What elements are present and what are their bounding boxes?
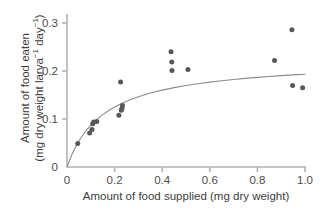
x-axis-tick-label: 0.2 (107, 174, 123, 186)
x-axis-tick-label: 0.8 (249, 174, 265, 186)
data-point (89, 127, 94, 132)
y-axis-title: Amount of food eaten (mg dry weight larv… (18, 8, 52, 168)
x-axis-tick-label: 0.4 (154, 174, 170, 186)
data-point (169, 49, 174, 54)
data-point (300, 85, 305, 90)
data-point (185, 67, 190, 72)
data-point (75, 141, 80, 146)
data-point (116, 113, 121, 118)
x-axis-tick-label: 0 (64, 174, 70, 186)
data-point (118, 80, 123, 85)
data-point-group (75, 27, 305, 146)
y-axis-tick-label: 0 (0, 161, 58, 173)
x-axis-tick-label: 1.0 (297, 174, 313, 186)
data-point (169, 68, 174, 73)
scatter-plot-figure: Amount of food supplied (mg dry weight) … (0, 0, 326, 212)
y-axis-tick-label: 0.1 (0, 113, 58, 125)
x-axis-tick-label: 0.6 (202, 174, 218, 186)
y-axis-title-line2: (mg dry weight larva−1 day−1) (32, 8, 46, 168)
y-axis-title-units-mid: day (33, 27, 45, 49)
data-point (272, 58, 277, 63)
y-axis-title-line1: Amount of food eaten (18, 8, 32, 168)
data-point (290, 83, 295, 88)
data-point (289, 27, 294, 32)
data-point (94, 119, 99, 124)
fitted-curve (67, 74, 305, 167)
data-point (120, 103, 125, 108)
y-axis-title-exponent-1: −1 (31, 49, 40, 58)
data-point (169, 59, 174, 64)
x-axis-title: Amount of food supplied (mg dry weight) (83, 190, 289, 202)
y-axis-tick-label: 0.2 (0, 65, 58, 77)
y-axis-tick-label: 0.3 (0, 17, 58, 29)
